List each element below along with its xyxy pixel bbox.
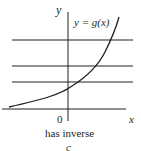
x-axis-label: x: [129, 113, 134, 125]
panel-letter: c: [66, 141, 71, 151]
y-axis-label: y: [56, 3, 61, 18]
curve-g: [9, 17, 119, 107]
origin-label: 0: [57, 113, 63, 125]
caption: has inverse: [45, 127, 94, 139]
curve-label: y = g(x): [74, 16, 110, 28]
